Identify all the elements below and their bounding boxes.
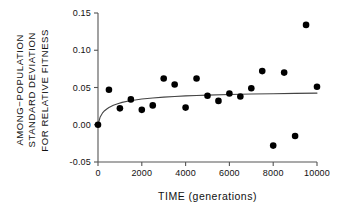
data-point <box>237 93 244 100</box>
figure-container: AMONG−POPULATION STANDARD DEVIATION FOR … <box>0 0 344 211</box>
data-point <box>149 102 156 109</box>
scatter-points <box>95 22 321 149</box>
x-tick-label-5: 10000 <box>304 168 330 178</box>
x-tick-label-3: 6000 <box>219 168 240 178</box>
data-point <box>171 81 178 88</box>
x-tick-label-0: 0 <box>95 168 100 178</box>
data-point <box>95 121 102 128</box>
data-point <box>215 98 222 105</box>
y-tick-label-2: 0.05 <box>73 83 91 93</box>
data-point <box>182 104 189 111</box>
y-tick-label-3: 0.10 <box>73 45 91 55</box>
data-point <box>106 86 113 93</box>
data-point <box>259 68 266 75</box>
data-point <box>281 69 288 76</box>
data-point <box>314 83 321 90</box>
data-point <box>204 92 211 99</box>
x-axis-title: TIME (generations) <box>158 190 257 202</box>
scatter-plot: -0.050.000.050.100.150200040006000800010… <box>0 0 344 211</box>
x-tick-label-2: 4000 <box>175 168 196 178</box>
x-tick-label-4: 8000 <box>263 168 284 178</box>
data-point <box>139 107 146 114</box>
data-point <box>292 133 299 140</box>
data-point <box>303 22 310 29</box>
data-point <box>160 75 167 82</box>
data-point <box>117 105 124 112</box>
y-tick-label-4: 0.15 <box>73 8 91 18</box>
x-tick-label-1: 2000 <box>131 168 152 178</box>
data-point <box>270 142 277 149</box>
data-point <box>128 96 135 103</box>
y-tick-label-1: 0.00 <box>73 120 91 130</box>
data-point <box>226 90 233 97</box>
data-point <box>248 85 255 92</box>
y-tick-label-0: -0.05 <box>69 157 91 167</box>
data-point <box>193 75 200 82</box>
